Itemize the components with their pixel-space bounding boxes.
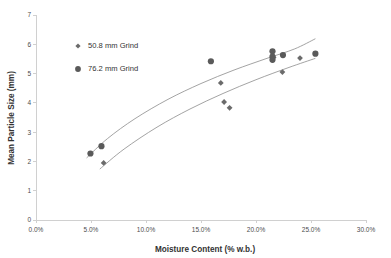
data-point-circle xyxy=(269,57,275,63)
y-tick-label: 1 xyxy=(27,187,31,194)
x-tick-label: 20.0% xyxy=(247,226,266,233)
axes xyxy=(36,15,366,220)
data-point-diamond xyxy=(280,69,286,75)
y-axis-title: Mean Particle Size (mm) xyxy=(7,71,16,165)
y-tick-label: 6 xyxy=(27,41,31,48)
data-point-diamond xyxy=(221,99,227,105)
chart-legend: 50.8 mm Grind76.2 mm Grind xyxy=(75,41,138,73)
x-tick-label: 30.0% xyxy=(357,226,376,233)
x-tick-label: 0.0% xyxy=(29,226,44,233)
y-tick-label: 7 xyxy=(27,11,31,18)
data-point-circle xyxy=(269,48,275,54)
scatter-plot: 012345670.0%5.0%10.0%15.0%20.0%25.0%30.0… xyxy=(0,0,391,258)
data-point-diamond xyxy=(227,105,233,111)
data-point-diamond xyxy=(297,55,303,61)
axis-tick-labels: 012345670.0%5.0%10.0%15.0%20.0%25.0%30.0… xyxy=(27,11,375,233)
legend-label-1: 76.2 mm Grind xyxy=(88,64,138,73)
x-tick-label: 25.0% xyxy=(302,226,321,233)
data-point-circle xyxy=(280,52,286,58)
x-tick-label: 15.0% xyxy=(192,226,211,233)
data-point-circle xyxy=(87,150,93,156)
x-axis-title: Moisture Content (% w.b.) xyxy=(155,245,255,254)
legend-marker-diamond xyxy=(75,43,80,48)
legend-label-0: 50.8 mm Grind xyxy=(88,41,138,50)
y-tick-label: 2 xyxy=(27,158,31,165)
y-tick-label: 4 xyxy=(27,99,31,106)
x-tick-label: 10.0% xyxy=(137,226,156,233)
y-tick-label: 3 xyxy=(27,129,31,136)
data-point-circle xyxy=(208,58,214,64)
y-tick-label: 0 xyxy=(27,216,31,223)
data-point-circle xyxy=(312,51,318,57)
y-tick-label: 5 xyxy=(27,70,31,77)
data-point-diamond xyxy=(218,80,224,86)
data-point-diamond xyxy=(101,160,107,166)
data-point-circle xyxy=(98,143,104,149)
x-tick-label: 5.0% xyxy=(84,226,99,233)
trend-line-diamond xyxy=(100,58,316,169)
legend-marker-circle xyxy=(75,66,81,72)
trend-lines xyxy=(87,39,316,169)
axis-ticks xyxy=(33,15,366,223)
chart-container: 012345670.0%5.0%10.0%15.0%20.0%25.0%30.0… xyxy=(0,0,391,258)
